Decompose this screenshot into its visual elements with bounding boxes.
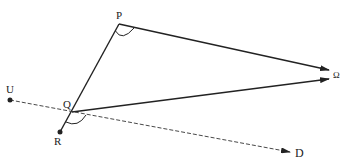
angle-mark-p xyxy=(116,28,135,36)
line-rp xyxy=(60,24,119,132)
geometry-diagram: P Q R U Ω D xyxy=(0,0,343,159)
label-d: D xyxy=(295,146,304,159)
label-omega: Ω xyxy=(333,70,340,80)
ray-q-omega xyxy=(72,79,329,112)
label-p: P xyxy=(116,9,122,21)
label-r: R xyxy=(54,135,62,147)
label-q: Q xyxy=(63,98,71,110)
point-u xyxy=(8,98,13,103)
label-u: U xyxy=(6,83,14,95)
ray-p-omega xyxy=(119,24,329,70)
point-r xyxy=(58,130,63,135)
dashed-line-ud xyxy=(10,100,290,152)
